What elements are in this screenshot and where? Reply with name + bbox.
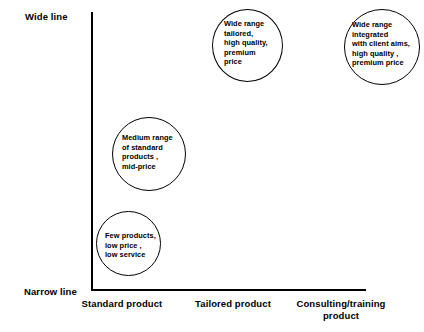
x-axis-line: [91, 289, 366, 291]
bubble-label-wide-range-integrated: Wide range integrated with client aims, …: [352, 20, 424, 68]
y-axis-top-label: Wide line: [25, 11, 68, 22]
x-axis-label-tailored-product: Tailored product: [188, 298, 278, 310]
x-axis-label-consulting-training-product: Consulting/training product: [281, 298, 401, 321]
x-axis-label-standard-product: Standard product: [77, 298, 167, 310]
diagram-canvas: Wide line Narrow line Standard product T…: [0, 0, 424, 332]
y-axis-bottom-label: Narrow line: [24, 286, 77, 297]
y-axis-line: [91, 12, 93, 291]
bubble-label-medium-range: Medium range of standard products , mid-…: [122, 133, 184, 171]
bubble-label-wide-range-tailored: Wide range tailored, high quality, premi…: [224, 19, 282, 67]
bubble-label-few-products: Few products, low price , low service: [105, 231, 165, 260]
